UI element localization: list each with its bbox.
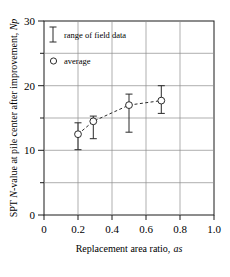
marker-average-2 xyxy=(90,118,97,125)
marker-average-4 xyxy=(158,97,165,104)
y-axis-title-italic-np: Np xyxy=(8,19,19,32)
y-axis-title-part2: -value at pile center after improvement, xyxy=(8,30,19,191)
data-point-3 xyxy=(126,94,133,132)
x-axis-title: Replacement area ratio,as xyxy=(76,243,183,254)
data-point-4 xyxy=(158,86,165,114)
x-tick-label-0.4: 0.4 xyxy=(105,223,119,235)
legend-item-range-of-field-data: range of field data xyxy=(50,27,127,42)
x-axis-title-italic: as xyxy=(173,243,182,254)
data-point-1 xyxy=(75,123,82,150)
y-tick-label-0: 0 xyxy=(30,209,36,221)
legend-circle-marker xyxy=(50,58,56,64)
legend-label-range-of-field-data: range of field data xyxy=(64,30,126,40)
x-tick-label-0.8: 0.8 xyxy=(173,223,187,235)
x-axis-title-main: Replacement area ratio, xyxy=(76,243,171,254)
x-tick-marks xyxy=(44,215,214,220)
x-tick-label-0: 0 xyxy=(41,223,47,235)
legend-label-average: average xyxy=(64,56,91,66)
spt-nvalue-vs-replacement-ratio-chart: 0 10 20 30 0 0.2 0.4 0.6 0.8 1.0 range o… xyxy=(0,0,230,277)
y-tick-marks xyxy=(38,21,44,215)
x-tick-label-0.6: 0.6 xyxy=(139,223,153,235)
marker-average-1 xyxy=(75,131,82,138)
figure-container: 0 10 20 30 0 0.2 0.4 0.6 0.8 1.0 range o… xyxy=(0,0,230,277)
y-axis-title: SPT N-value at pile center after improve… xyxy=(8,19,19,218)
x-tick-labels: 0 0.2 0.4 0.6 0.8 1.0 xyxy=(41,223,221,235)
data-point-2 xyxy=(90,116,97,139)
y-tick-label-10: 10 xyxy=(24,144,36,156)
y-axis-title-part1: SPT xyxy=(8,198,19,218)
y-tick-label-30: 30 xyxy=(24,15,36,27)
marker-average-3 xyxy=(126,102,133,109)
y-tick-label-20: 20 xyxy=(24,80,36,92)
y-tick-labels: 0 10 20 30 xyxy=(24,15,36,221)
legend: range of field data average xyxy=(50,27,127,66)
x-tick-label-0.2: 0.2 xyxy=(71,223,85,235)
trend-line xyxy=(78,101,161,135)
legend-item-average: average xyxy=(50,56,90,66)
x-tick-label-1.0: 1.0 xyxy=(207,223,221,235)
